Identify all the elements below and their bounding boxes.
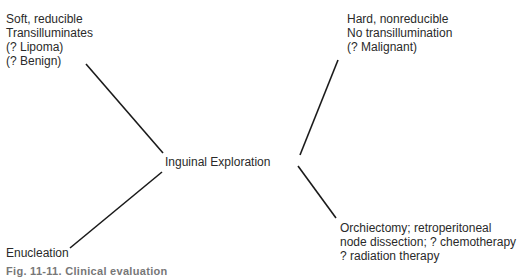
node-line: node dissection; ? chemotherapy (340, 235, 516, 249)
node-enucleation: Enucleation (6, 246, 69, 260)
node-line: (? Lipoma) (6, 40, 93, 54)
center-node-inguinal-exploration: Inguinal Exploration (165, 155, 270, 169)
node-line: Hard, nonreducible (347, 12, 452, 26)
node-soft-reducible: Soft, reducible Transilluminates (? Lipo… (6, 12, 93, 68)
node-orchiectomy: Orchiectomy; retroperitoneal node dissec… (340, 221, 516, 263)
figure-caption: Fig. 11-11. Clinical evaluation (6, 265, 168, 277)
node-line: (? Benign) (6, 54, 93, 68)
node-line: Soft, reducible (6, 12, 93, 26)
node-line: Orchiectomy; retroperitoneal (340, 221, 516, 235)
node-hard-nonreducible: Hard, nonreducible No transillumination … (347, 12, 452, 54)
node-line: Transilluminates (6, 26, 93, 40)
connector-top-left (86, 64, 163, 153)
connector-top-right (300, 60, 338, 155)
node-line: ? radiation therapy (340, 249, 516, 263)
node-line: (? Malignant) (347, 40, 452, 54)
center-label: Inguinal Exploration (165, 155, 270, 169)
node-line: No transillumination (347, 26, 452, 40)
connector-bottom-right (298, 166, 336, 218)
connector-bottom-left (70, 172, 162, 248)
node-line: Enucleation (6, 246, 69, 260)
